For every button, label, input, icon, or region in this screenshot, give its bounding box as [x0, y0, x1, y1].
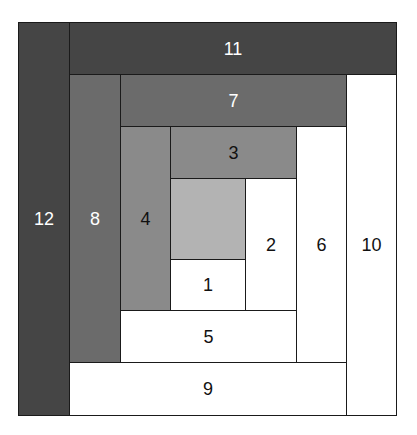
block-label: 6: [316, 236, 326, 254]
block-center: [170, 178, 246, 260]
block-label: 5: [203, 328, 213, 346]
block-label: 9: [203, 380, 213, 398]
block-3: 3: [170, 126, 297, 179]
block-label: 11: [224, 40, 243, 58]
block-label: 4: [140, 210, 150, 228]
block-4: 4: [120, 126, 171, 311]
log-cabin-diagram: 1 2 3 4 5 6 7 8 9 10 11 12: [0, 0, 417, 435]
block-10: 10: [346, 74, 397, 416]
block-label: 1: [203, 276, 213, 294]
block-label: 8: [90, 210, 100, 228]
block-6: 6: [296, 126, 347, 363]
block-2: 2: [245, 178, 297, 311]
block-1: 1: [170, 259, 246, 311]
block-label: 12: [34, 210, 54, 228]
block-label: 3: [228, 144, 238, 162]
block-7: 7: [120, 74, 347, 127]
block-12: 12: [18, 22, 70, 416]
block-label: 2: [266, 236, 276, 254]
block-11: 11: [69, 22, 397, 75]
block-9: 9: [69, 362, 347, 416]
block-label: 10: [361, 236, 381, 254]
block-5: 5: [120, 310, 297, 363]
block-8: 8: [69, 74, 121, 363]
block-label: 7: [228, 92, 238, 110]
